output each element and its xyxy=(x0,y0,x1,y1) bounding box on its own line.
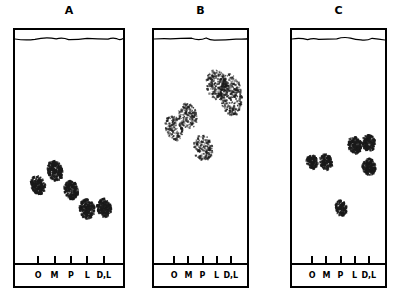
tlc-spot xyxy=(332,197,350,219)
tlc-spot xyxy=(317,151,336,173)
tlc-spot xyxy=(359,155,379,178)
lane-tick-1 xyxy=(325,256,327,263)
chromatography-plate: OMPLD,L xyxy=(152,28,249,288)
origin-baseline xyxy=(292,263,385,265)
lane-label-0: O xyxy=(309,271,316,280)
lane-tick-0 xyxy=(37,256,39,263)
lane-label-0: O xyxy=(171,271,178,280)
lane-label-3: L xyxy=(85,271,90,280)
lane-tick-4 xyxy=(368,256,370,263)
lane-label-3: L xyxy=(214,271,219,280)
lane-label-4: D,L xyxy=(96,271,111,280)
panel-label: B xyxy=(152,5,249,17)
lane-label-1: M xyxy=(322,271,330,280)
lane-label-0: O xyxy=(35,271,42,280)
lane-tick-4 xyxy=(230,256,232,263)
lane-label-3: L xyxy=(352,271,357,280)
solvent-front-line xyxy=(15,34,123,44)
origin-baseline xyxy=(15,263,123,265)
lane-tick-4 xyxy=(103,256,105,263)
panel-label: C xyxy=(290,5,387,17)
lane-tick-0 xyxy=(173,256,175,263)
lane-label-4: D,L xyxy=(223,271,238,280)
lane-label-2: P xyxy=(200,271,206,280)
lane-label-1: M xyxy=(184,271,192,280)
lane-label-2: P xyxy=(338,271,344,280)
lane-label-2: P xyxy=(68,271,74,280)
lane-tick-2 xyxy=(70,256,72,263)
tlc-figure: AOMPLD,LBOMPLD,LCOMPLD,L xyxy=(0,0,399,306)
solvent-front-line xyxy=(154,34,247,44)
chromatography-plate: OMPLD,L xyxy=(290,28,387,288)
lane-tick-3 xyxy=(216,256,218,263)
lane-tick-1 xyxy=(54,256,56,263)
lane-tick-2 xyxy=(202,256,204,263)
lane-tick-0 xyxy=(311,256,313,263)
lane-label-4: D,L xyxy=(361,271,376,280)
tlc-panel-a: AOMPLD,L xyxy=(13,0,125,306)
tlc-spot xyxy=(215,71,246,119)
tlc-panel-b: BOMPLD,L xyxy=(152,0,249,306)
lane-tick-2 xyxy=(340,256,342,263)
lane-tick-3 xyxy=(86,256,88,263)
panel-label: A xyxy=(13,5,125,17)
origin-baseline xyxy=(154,263,247,265)
tlc-spot xyxy=(359,131,379,155)
chromatography-plate: OMPLD,L xyxy=(13,28,125,288)
solvent-front-line xyxy=(292,34,385,44)
lane-label-1: M xyxy=(51,271,59,280)
lane-tick-3 xyxy=(354,256,356,263)
tlc-spot xyxy=(189,132,216,165)
tlc-panel-c: COMPLD,L xyxy=(290,0,387,306)
tlc-spot xyxy=(93,195,114,220)
lane-tick-1 xyxy=(187,256,189,263)
